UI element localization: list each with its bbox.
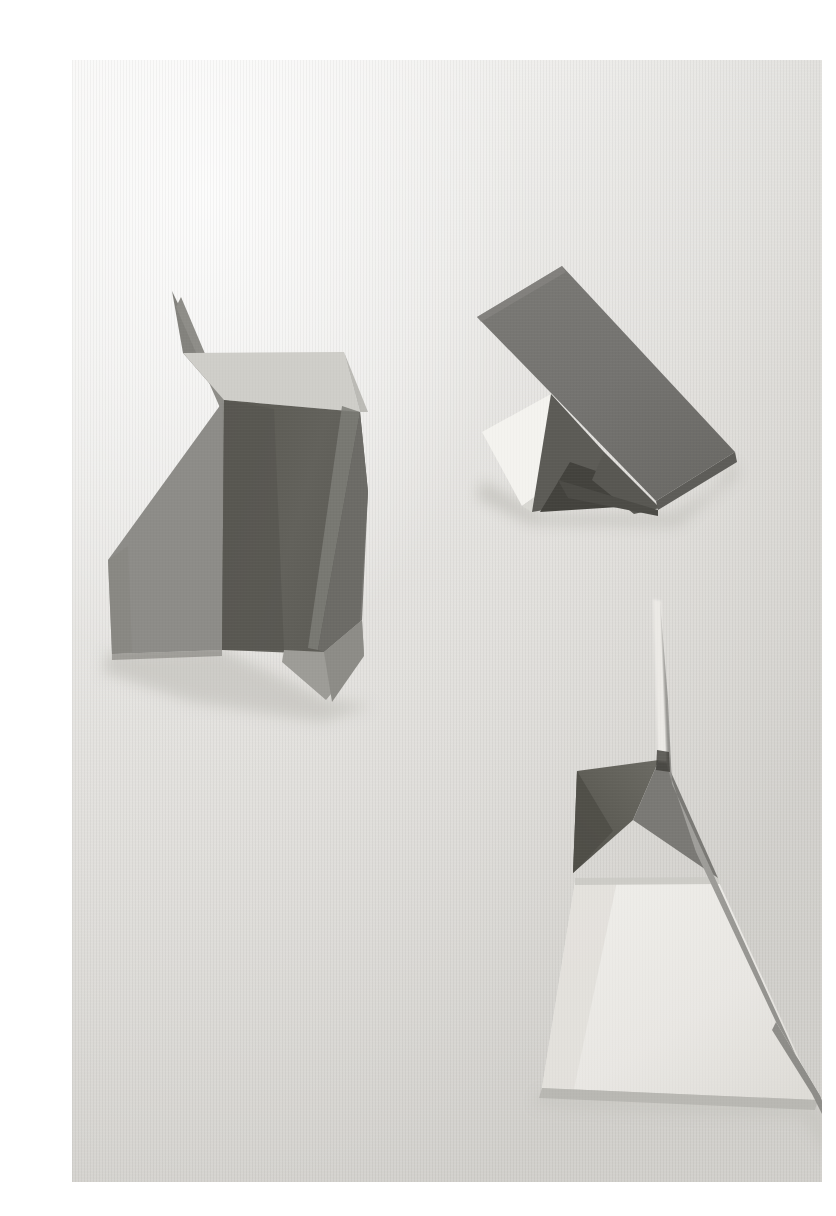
photo-page: Three folded paper sculptures on a pale …	[0, 0, 836, 1216]
photo-canvas	[72, 60, 822, 1182]
photo-grain-overlay	[72, 60, 822, 1182]
photograph	[72, 60, 822, 1182]
